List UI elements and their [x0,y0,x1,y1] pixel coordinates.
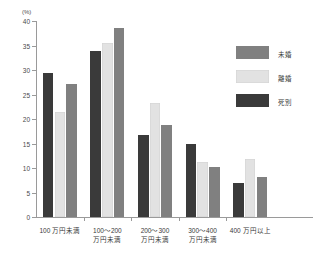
legend-swatch [236,70,269,83]
x-tick-mark [131,217,132,221]
y-tick-mark [32,46,36,47]
bar-group [84,21,132,217]
bar [245,159,256,217]
bar [197,162,208,217]
bar [66,84,77,217]
legend-label: 未婚 [278,49,292,59]
bar [186,144,197,218]
y-axis-unit-label: (%) [22,9,31,15]
bar [150,103,161,217]
bar [43,73,54,217]
bar-group [36,21,84,217]
y-tick-mark [32,95,36,96]
y-tick-label: 10 [23,165,30,172]
y-tick-label: 0 [26,214,30,221]
y-tick-label: 35 [23,42,30,49]
bar-group [131,21,179,217]
bar [233,183,244,217]
y-tick-label: 5 [26,189,30,196]
x-axis-label: 400 万円以上 [218,226,282,235]
y-tick-label: 30 [23,67,30,74]
legend-label: 死別 [278,97,292,107]
y-tick-label: 25 [23,91,30,98]
y-tick-label: 20 [23,116,30,123]
y-tick-mark [32,70,36,71]
bar [114,28,125,217]
y-tick-mark [32,217,36,218]
bar-chart: (%) 0510152025303540 100 万円未満100〜200 万円未… [0,0,324,256]
legend-swatch [236,46,269,59]
y-tick-label: 15 [23,140,30,147]
bar-group [179,21,227,217]
bar [102,43,113,217]
y-tick-mark [32,119,36,120]
legend-swatch [236,94,269,107]
bar [138,135,149,217]
y-tick-mark [32,193,36,194]
y-tick-mark [32,21,36,22]
bar [90,51,101,217]
y-tick-mark [32,168,36,169]
bar [209,167,220,217]
x-axis-line [36,217,313,218]
bar [257,177,268,217]
bar [55,112,66,217]
bar [161,125,172,217]
x-tick-mark [84,217,85,221]
x-tick-mark [179,217,180,221]
y-tick-mark [32,144,36,145]
y-tick-label: 40 [23,18,30,25]
x-tick-mark [226,217,227,221]
legend-label: 離婚 [278,73,292,83]
